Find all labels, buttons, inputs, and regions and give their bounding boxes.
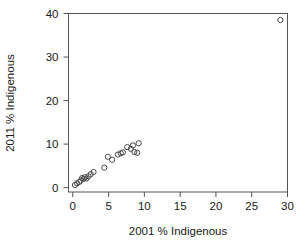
data-point [278, 17, 283, 22]
y-tick-label-30: 30 [46, 51, 59, 63]
y-axis-tick-labels: 010203040 [46, 8, 59, 194]
plot-canvas: 051015202530 010203040 2001 % Indigenous… [0, 0, 303, 252]
x-tick-label-0: 0 [70, 200, 76, 212]
y-axis-title: 2011 % Indigenous [4, 54, 16, 152]
scatter-plot-figure: 051015202530 010203040 2001 % Indigenous… [0, 0, 303, 252]
scatter-points-group [72, 17, 283, 187]
y-tick-label-40: 40 [46, 8, 59, 20]
x-tick-label-25: 25 [245, 200, 258, 212]
x-tick-label-15: 15 [174, 200, 187, 212]
plot-frame [69, 14, 288, 193]
x-axis-tick-labels: 051015202530 [70, 200, 294, 212]
y-tick-label-10: 10 [46, 138, 59, 150]
y-axis-ticks [64, 14, 69, 188]
x-axis-ticks [73, 192, 288, 197]
data-point [136, 141, 141, 146]
x-axis-title: 2001 % Indigenous [129, 225, 228, 237]
x-tick-label-5: 5 [105, 200, 111, 212]
y-tick-label-0: 0 [52, 182, 58, 194]
x-tick-label-10: 10 [138, 200, 151, 212]
x-tick-label-30: 30 [281, 200, 294, 212]
data-point [110, 157, 115, 162]
data-point [102, 165, 107, 170]
y-tick-label-20: 20 [46, 95, 59, 107]
x-tick-label-20: 20 [210, 200, 223, 212]
